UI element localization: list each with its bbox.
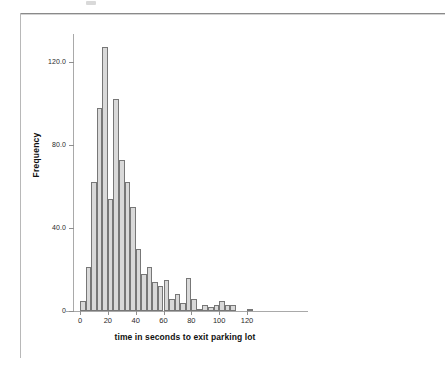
x-axis-tick <box>191 311 192 315</box>
x-axis-tick <box>136 311 137 315</box>
x-axis-tick <box>164 311 165 315</box>
histogram-bar <box>247 309 253 311</box>
histogram-chart: 040.080.0120.0 020406080100120 time in s… <box>0 0 445 373</box>
y-axis-tick <box>69 311 74 312</box>
x-axis-tick-label: 0 <box>68 316 92 325</box>
x-axis-tick-label: 80 <box>179 316 203 325</box>
x-axis-tick-label: 20 <box>96 316 120 325</box>
x-axis-tick-label: 40 <box>124 316 148 325</box>
histogram-bar <box>230 305 236 311</box>
x-axis-line <box>66 311 308 312</box>
x-axis-tick <box>80 311 81 315</box>
y-axis-title: Frequency <box>31 116 41 194</box>
x-axis-tick-label: 120 <box>235 316 259 325</box>
histogram-bars <box>0 30 445 311</box>
x-axis-tick <box>219 311 220 315</box>
x-axis-tick <box>247 311 248 315</box>
x-axis-tick-label: 60 <box>152 316 176 325</box>
x-axis-tick <box>108 311 109 315</box>
x-axis-tick-label: 100 <box>207 316 231 325</box>
x-axis-title: time in seconds to exit parking lot <box>60 332 310 342</box>
